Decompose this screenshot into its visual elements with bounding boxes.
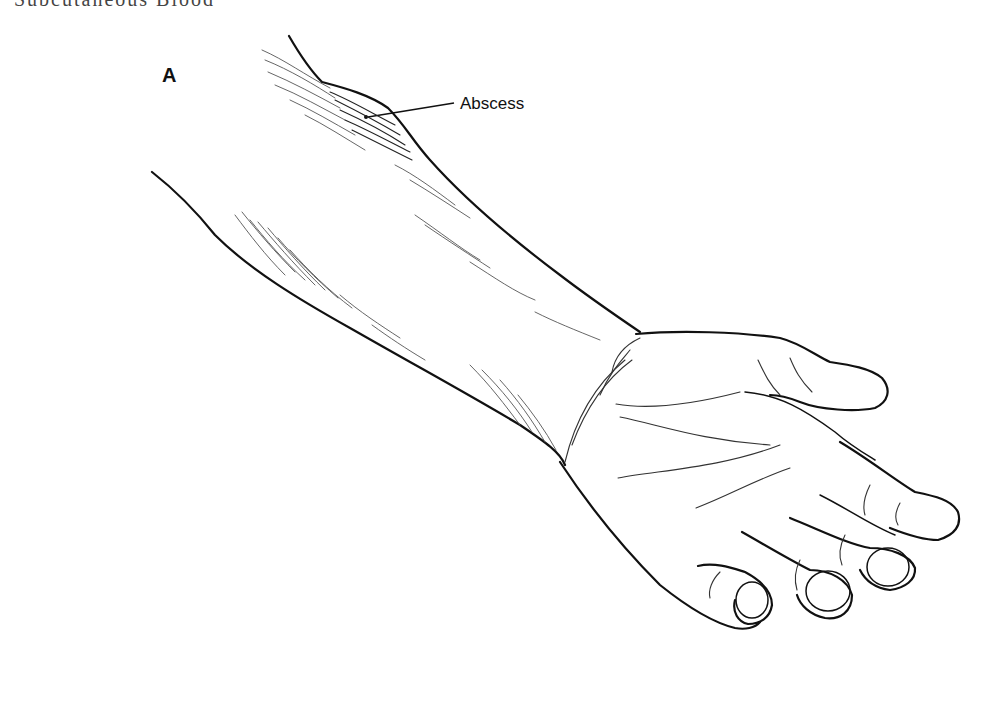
label-leader-line (364, 103, 454, 119)
ring-fingertip (806, 571, 850, 611)
little-fingertip (736, 582, 768, 618)
palm-top-edge (745, 392, 875, 460)
middle-fingertip (867, 548, 909, 586)
abscess-hatching (262, 50, 470, 218)
index-finger-contour (840, 442, 959, 540)
forearm-hatching (235, 212, 600, 450)
finger-creases (709, 485, 900, 598)
wrist-folds (565, 360, 632, 462)
hand-thumb-contour (636, 332, 888, 410)
middle-finger-contour (790, 518, 915, 590)
forearm-illustration (0, 0, 1007, 701)
ring-finger-contour (742, 532, 852, 618)
index-finger-underside (820, 495, 895, 535)
palm-lower-edge (560, 462, 760, 629)
palm-creases (600, 338, 812, 508)
forearm-lower-contour (152, 172, 565, 465)
forearm-upper-contour (289, 36, 640, 332)
